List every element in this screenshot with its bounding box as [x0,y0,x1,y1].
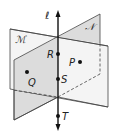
point-s-label: S [61,74,68,85]
point-p [78,60,82,64]
planes-intersection-diagram: ℓ ℳ 𝒩 R S T P Q [0,0,114,135]
point-q-label: Q [28,77,36,88]
plane-m-label: ℳ [15,34,27,45]
arrow-up-icon [56,10,61,17]
point-t-label: T [62,111,69,122]
point-q [25,70,29,74]
point-r [56,52,60,56]
point-p-label: P [69,57,76,68]
arrow-down-icon [56,124,61,131]
line-l-label: ℓ [45,10,49,21]
point-s [56,77,60,81]
point-t [56,114,60,118]
point-r-label: R [47,49,54,60]
